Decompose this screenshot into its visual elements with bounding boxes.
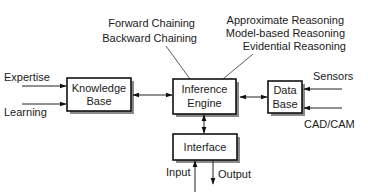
expert-system-diagram: Forward Chaining Backward Chaining Appro… (0, 0, 368, 193)
inference-engine-box: Inference Engine (173, 79, 239, 117)
knowledge-base-box: Knowledge Base (67, 78, 134, 114)
interface-box: Interface (173, 134, 240, 163)
inference-engine-label-1: Inference (182, 83, 228, 95)
annotation-forward-chaining: Forward Chaining (108, 17, 195, 29)
label-learning: Learning (4, 106, 47, 118)
chaining-connector (166, 46, 190, 79)
inference-engine-label-2: Engine (187, 97, 221, 109)
label-input: Input (166, 166, 190, 178)
annotation-approximate-reasoning: Approximate Reasoning (227, 14, 344, 26)
data-base-label-2: Base (272, 98, 297, 110)
label-expertise: Expertise (4, 71, 50, 83)
label-output: Output (218, 168, 251, 180)
annotation-model-based-reasoning: Model-based Reasoning (226, 27, 345, 39)
label-cadcam: CAD/CAM (304, 118, 355, 130)
label-sensors: Sensors (313, 70, 354, 82)
data-base-box: Data Base (268, 81, 305, 116)
interface-label: Interface (184, 141, 227, 153)
data-base-label-1: Data (273, 84, 297, 96)
reasoning-connector (223, 54, 253, 79)
annotation-evidential-reasoning: Evidential Reasoning (243, 40, 346, 52)
annotation-backward-chaining: Backward Chaining (102, 32, 197, 44)
knowledge-base-label-1: Knowledge (72, 82, 126, 94)
knowledge-base-label-2: Base (86, 95, 111, 107)
